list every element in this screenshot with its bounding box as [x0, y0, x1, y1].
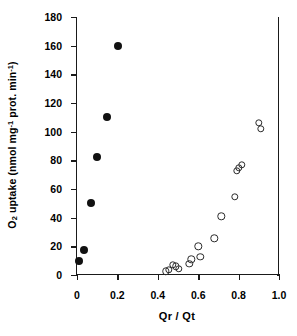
y-tick: 80: [71, 160, 77, 161]
x-tick: 0: [77, 274, 78, 280]
data-point-open-circles: [231, 193, 238, 200]
x-tick-label: 0.6: [191, 289, 206, 301]
data-point-filled-circles: [80, 246, 88, 254]
x-tick-label: 0.8: [231, 289, 246, 301]
data-point-open-circles: [194, 243, 201, 250]
y-axis-title-mid: uptake (nmol mg: [6, 128, 18, 217]
x-tick: 0.8: [239, 274, 240, 280]
y-tick-label: 180: [44, 11, 62, 23]
x-tick: 0.4: [158, 274, 159, 280]
y-tick: 160: [71, 46, 77, 47]
y-tick: 140: [71, 74, 77, 75]
x-tick-label: 1.0: [272, 289, 287, 301]
y-tick: 60: [71, 189, 77, 190]
y-tick-label: 140: [44, 68, 62, 80]
y-axis-title-sup1: -1: [6, 121, 15, 128]
plot-area: 020406080100120140160180 00.20.40.60.81.…: [76, 17, 278, 275]
data-point-filled-circles: [75, 257, 83, 265]
data-point-open-circles: [175, 265, 182, 272]
x-tick: 0.6: [198, 274, 199, 280]
y-tick: 120: [71, 103, 77, 104]
y-tick-label: 80: [50, 154, 62, 166]
x-axis-title: Qr / Qt: [76, 310, 278, 322]
y-axis-title: O2 uptake (nmol mg-1 prot. min-1): [7, 61, 19, 228]
x-tick: 1.0: [279, 274, 280, 280]
y-tick: 180: [71, 17, 77, 18]
y-axis-title-mid2: prot. min: [6, 72, 18, 121]
y-tick-label: 160: [44, 40, 62, 52]
y-tick-label: 100: [44, 126, 62, 138]
y-tick-label: 60: [50, 183, 62, 195]
data-point-open-circles: [218, 213, 225, 220]
data-point-filled-circles: [103, 113, 111, 121]
y-tick-label: 120: [44, 97, 62, 109]
y-tick: 100: [71, 132, 77, 133]
y-tick: 40: [71, 218, 77, 219]
y-axis-title-lead: O: [6, 220, 18, 228]
y-axis-title-sub: 2: [11, 216, 20, 220]
data-point-open-circles: [238, 161, 245, 168]
y-axis-title-tail: ): [6, 61, 18, 65]
data-point-filled-circles: [87, 199, 95, 207]
x-tick-label: 0: [74, 289, 80, 301]
data-point-open-circles: [197, 253, 204, 260]
figure-container: O2 uptake (nmol mg-1 prot. min-1) 020406…: [0, 0, 297, 336]
data-point-open-circles: [187, 256, 194, 263]
y-axis-title-wrapper: O2 uptake (nmol mg-1 prot. min-1): [0, 0, 26, 290]
x-tick-label: 0.4: [150, 289, 165, 301]
data-point-open-circles: [211, 235, 218, 242]
y-tick: 20: [71, 246, 77, 247]
data-point-open-circles: [257, 125, 264, 132]
x-tick-label: 0.2: [110, 289, 125, 301]
y-axis-title-sup2: -1: [6, 65, 15, 72]
y-tick-label: 20: [50, 240, 62, 252]
y-tick-label: 0: [56, 269, 62, 281]
x-tick: 0.2: [117, 274, 118, 280]
data-point-filled-circles: [93, 153, 101, 161]
y-tick-label: 40: [50, 212, 62, 224]
data-point-filled-circles: [114, 42, 122, 50]
